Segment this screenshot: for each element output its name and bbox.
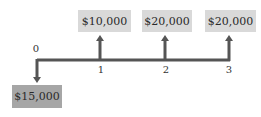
period-label-2: 2 xyxy=(163,64,169,75)
period-label-3: 3 xyxy=(226,64,232,75)
inflow-box-1: $10,000 xyxy=(78,10,131,32)
inflow-box-2: $20,000 xyxy=(142,10,192,32)
period-label-1: 1 xyxy=(98,64,104,75)
inflow-box-3: $20,000 xyxy=(205,10,256,32)
period-label-0: 0 xyxy=(33,43,39,54)
outflow-box-0: $15,000 xyxy=(12,85,62,108)
